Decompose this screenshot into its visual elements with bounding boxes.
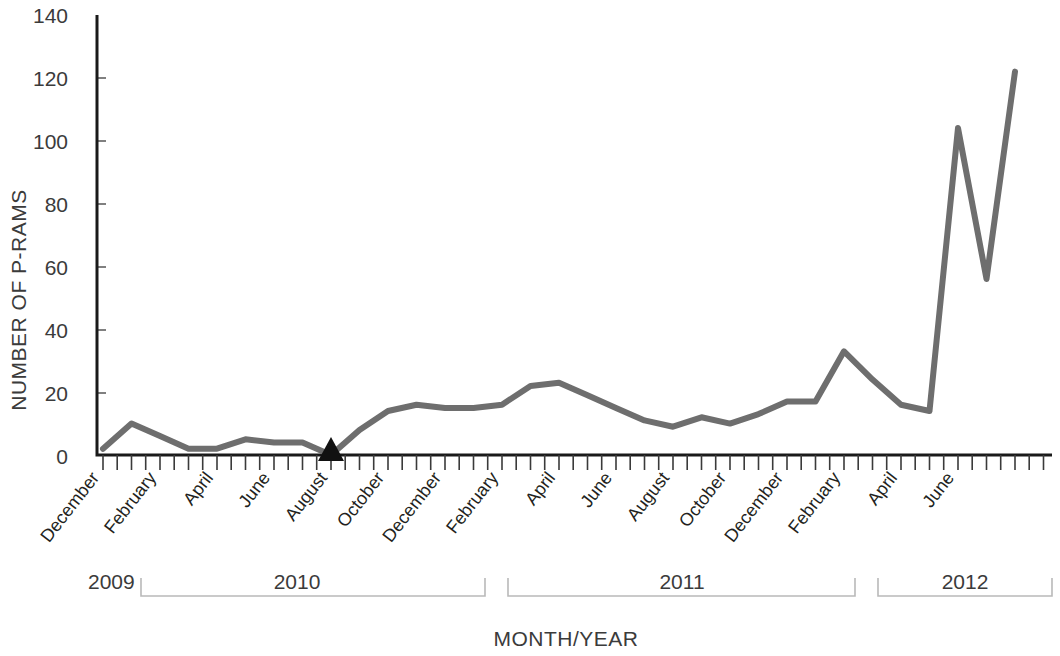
- y-tick-120: 120: [33, 67, 68, 90]
- y-tick-20: 20: [45, 382, 68, 405]
- y-tick-labels: 140 120 100 80 60 40 20 0: [33, 4, 68, 468]
- y-tick-60: 60: [45, 256, 68, 279]
- year-label-2011: 2011: [659, 570, 704, 593]
- x-label-10: August: [623, 468, 673, 524]
- y-tick-0: 0: [56, 445, 68, 468]
- x-label-12: December: [720, 468, 787, 546]
- x-label-14: April: [863, 468, 901, 509]
- x-label-3: June: [234, 468, 274, 511]
- prams-line-chart: NUMBER OF P-RAMS 140 120 100 80 60 40 20…: [0, 0, 1060, 656]
- x-label-1: February: [100, 468, 160, 537]
- x-label-8: April: [521, 468, 559, 509]
- x-label-4: August: [281, 468, 331, 524]
- year-label-2012: 2012: [942, 570, 989, 593]
- y-tick-80: 80: [45, 193, 68, 216]
- x-tick-marks: [103, 455, 1044, 470]
- x-label-2: April: [179, 468, 217, 509]
- x-label-0: December: [36, 468, 103, 546]
- year-label-2009: 2009: [88, 570, 135, 593]
- y-axis-title: NUMBER OF P-RAMS: [7, 189, 30, 411]
- year-labels: 2009 2010 2011 2012: [88, 570, 988, 593]
- x-label-5: October: [333, 468, 388, 531]
- x-axis-title: MONTH/YEAR: [493, 627, 638, 650]
- y-tick-140: 140: [33, 4, 68, 27]
- chart-canvas: NUMBER OF P-RAMS 140 120 100 80 60 40 20…: [0, 0, 1060, 656]
- year-label-2010: 2010: [274, 570, 321, 593]
- y-tick-40: 40: [45, 319, 68, 342]
- x-label-9: June: [576, 468, 616, 511]
- x-label-6: December: [378, 468, 445, 546]
- prams-data-line-main: [103, 72, 1015, 455]
- x-label-13: February: [784, 468, 844, 537]
- x-label-15: June: [918, 468, 958, 511]
- y-tick-100: 100: [33, 130, 68, 153]
- x-label-11: October: [675, 468, 730, 531]
- x-month-labels: December February April June August Octo…: [36, 468, 958, 546]
- x-label-7: February: [442, 468, 502, 537]
